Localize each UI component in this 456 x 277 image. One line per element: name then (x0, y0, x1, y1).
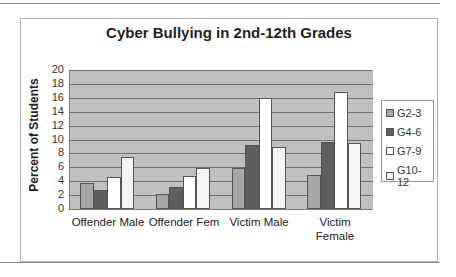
legend-swatch-icon (386, 109, 394, 117)
y-tick-label: 10 (42, 134, 64, 145)
bar (245, 145, 259, 209)
legend-label: G2-3 (397, 107, 421, 119)
bar (232, 168, 246, 209)
y-tick-label: 2 (42, 189, 64, 200)
category-label-offender-fem: Offender Fem (146, 215, 222, 229)
y-tick-label: 14 (42, 106, 64, 117)
category-label-victim-female: Victim Female (297, 215, 373, 243)
bar (107, 177, 121, 209)
bar (334, 92, 348, 209)
y-axis-label: Percent of Students (27, 65, 41, 205)
category-label-offender-male: Offender Male (70, 215, 146, 229)
gridline (70, 84, 373, 85)
gridline (70, 126, 373, 127)
bar (307, 175, 321, 209)
bar (183, 176, 197, 209)
y-tick-label: 16 (42, 92, 64, 103)
bar (272, 147, 286, 209)
legend-label: G4-6 (397, 126, 421, 138)
legend-item-g10-12: G10-12 (386, 164, 433, 188)
chart-title: Cyber Bullying in 2nd-12th Grades (20, 24, 438, 41)
y-tick-label: 8 (42, 147, 64, 158)
y-tick-label: 0 (42, 203, 64, 214)
bar (121, 157, 135, 209)
bottom-rule (0, 262, 440, 263)
gridline (70, 140, 373, 141)
bar (169, 187, 183, 209)
gridline (70, 112, 373, 113)
legend-item-g4-6: G4-6 (386, 126, 421, 138)
legend-swatch-icon (386, 128, 394, 136)
bar (348, 143, 362, 209)
legend-item-g2-3: G2-3 (386, 107, 421, 119)
legend-swatch-icon (386, 147, 394, 155)
y-tick-label: 20 (42, 64, 64, 75)
gridline (70, 70, 373, 71)
bar (196, 168, 210, 209)
y-tick-label: 18 (42, 78, 64, 89)
legend-label: G7-9 (397, 145, 421, 157)
y-tick-label: 6 (42, 161, 64, 172)
x-axis-line (70, 209, 373, 210)
bar (80, 183, 94, 209)
gridline (70, 98, 373, 99)
legend-swatch-icon (386, 172, 394, 180)
plot-area (70, 70, 373, 209)
category-label-line-1: Victim (297, 215, 373, 229)
y-tick-label: 4 (42, 175, 64, 186)
bar (94, 190, 108, 209)
legend-item-g7-9: G7-9 (386, 145, 421, 157)
bar (156, 194, 170, 209)
category-label-line-2: Female (297, 229, 373, 243)
y-axis-line (69, 70, 70, 210)
legend-label: G10-12 (397, 164, 433, 188)
bar (321, 142, 335, 209)
top-rule (0, 3, 440, 4)
legend: G2-3 G4-6 G7-9 G10-12 (381, 100, 434, 182)
y-tick-label: 12 (42, 120, 64, 131)
bar (259, 98, 273, 209)
category-label-victim-male: Victim Male (221, 215, 297, 229)
